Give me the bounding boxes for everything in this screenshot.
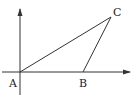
point-label-a: A [8, 77, 18, 90]
point-label-c: C [113, 6, 121, 19]
triangle-diagram: A B C [0, 0, 135, 102]
point-label-b: B [79, 77, 87, 90]
